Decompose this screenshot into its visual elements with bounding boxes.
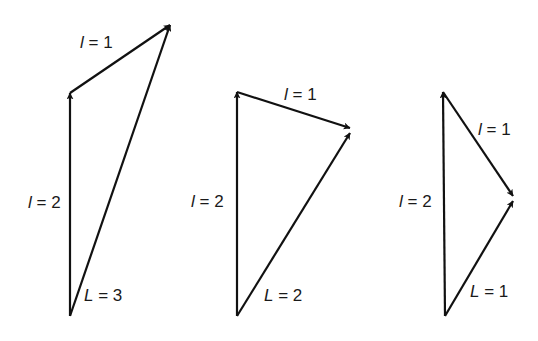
vector-addition-diagram: l = 2 l = 1 L = 3 l = 2 l = 1 L = 2 l = … — [0, 0, 538, 341]
label-L-equals-1: L = 1 — [470, 282, 508, 301]
label-l-equals-1: l = 1 — [284, 85, 317, 104]
vector-L-arrow — [70, 25, 170, 316]
diagram-l2-l1-L3: l = 2 l = 1 L = 3 — [28, 25, 170, 316]
label-l-equals-1: l = 1 — [478, 120, 511, 139]
label-l-equals-2: l = 2 — [28, 193, 61, 212]
label-l-equals-2: l = 2 — [191, 192, 224, 211]
vector-l1-arrow — [443, 92, 513, 196]
vector-l2-arrow — [443, 92, 445, 316]
label-l-equals-2: l = 2 — [399, 192, 432, 211]
diagram-l2-l1-L2: l = 2 l = 1 L = 2 — [191, 85, 350, 316]
diagram-l2-l1-L1: l = 2 l = 1 L = 1 — [399, 92, 513, 316]
label-l-equals-1: l = 1 — [80, 33, 113, 52]
label-L-equals-3: L = 3 — [84, 286, 122, 305]
label-L-equals-2: L = 2 — [264, 286, 302, 305]
